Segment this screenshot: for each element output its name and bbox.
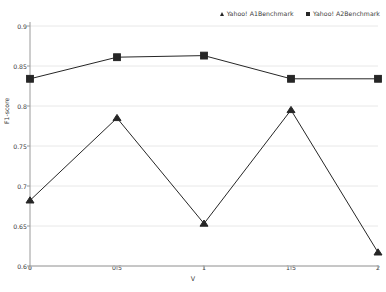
plot-area [0, 0, 386, 292]
data-point-square [375, 75, 382, 82]
data-point-square [27, 75, 34, 82]
data-point-square [201, 52, 208, 59]
chart-container: Yahoo! A1Benchmark Yahoo! A2Benchmark F1… [0, 0, 386, 292]
data-point-triangle [374, 249, 382, 255]
data-point-square [114, 54, 121, 61]
data-point-square [288, 75, 295, 82]
data-point-triangle [287, 106, 295, 112]
series-line-0 [30, 110, 378, 252]
data-point-triangle [113, 114, 121, 120]
